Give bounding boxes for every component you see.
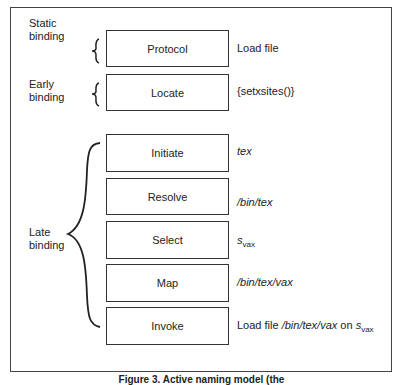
step-box-map: Map — [106, 264, 229, 302]
desc-path: /bin/tex/vax — [282, 319, 338, 331]
step-desc-select: svax — [237, 234, 255, 249]
desc-text: Load file — [237, 319, 282, 331]
step-desc-protocol: Load file — [237, 42, 279, 54]
step-desc-initiate: tex — [237, 145, 252, 157]
desc-text: /bin/tex/vax — [237, 276, 293, 288]
desc-subscript: vax — [361, 325, 373, 334]
step-name: Protocol — [147, 43, 187, 55]
step-name: Initiate — [151, 147, 183, 159]
desc-text: /bin/tex — [237, 196, 272, 208]
step-box-select: Select — [106, 221, 229, 259]
desc-text: on — [337, 319, 355, 331]
desc-text: Load file — [237, 42, 279, 54]
step-name: Resolve — [148, 191, 188, 203]
brace-early-icon — [92, 83, 99, 106]
step-desc-locate: {setxsites()} — [237, 85, 294, 97]
step-name: Map — [157, 277, 178, 289]
step-name: Locate — [151, 87, 184, 99]
desc-text: {setxsites()} — [237, 85, 294, 97]
brace-static-icon — [92, 39, 99, 63]
step-box-protocol: Protocol — [106, 30, 229, 67]
step-desc-resolve: /bin/tex — [237, 196, 272, 208]
desc-text: tex — [237, 145, 252, 157]
step-desc-map: /bin/tex/vax — [237, 276, 293, 288]
step-box-invoke: Invoke — [106, 307, 229, 345]
step-box-locate: Locate — [106, 74, 229, 111]
desc-subscript: vax — [243, 240, 255, 249]
step-name: Invoke — [151, 320, 183, 332]
step-name: Select — [152, 234, 183, 246]
brace-late-icon — [68, 143, 100, 327]
step-box-resolve: Resolve — [106, 178, 229, 215]
figure-caption: Figure 3. Active naming model (the — [0, 374, 403, 385]
step-box-initiate: Initiate — [106, 134, 229, 172]
step-desc-invoke: Load file /bin/tex/vax on svax — [237, 319, 374, 334]
